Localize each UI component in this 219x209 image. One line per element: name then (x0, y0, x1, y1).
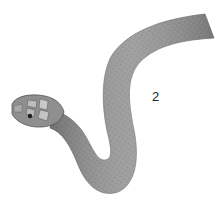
figure-number-label: 2 (152, 89, 159, 104)
snake-eye (28, 114, 32, 118)
snake-illustration (0, 0, 219, 209)
illustration-canvas: 2 (0, 0, 219, 209)
